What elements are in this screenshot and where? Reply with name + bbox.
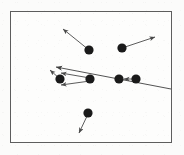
dot-mid-right-b (131, 74, 140, 83)
dot-top-left (84, 45, 93, 54)
vector-canvas (0, 0, 184, 155)
dot-mid-left (55, 74, 64, 83)
dot-bottom (83, 108, 92, 117)
arrow-top-left-upleft (63, 29, 89, 50)
dot-mid-center (85, 74, 94, 83)
arrow-mid-center-to-left-upper (61, 73, 90, 78)
ray-long-traversing (56, 67, 171, 89)
arrow-mid-center-to-left-lower (61, 81, 90, 85)
rays-layer (56, 67, 171, 89)
dot-mid-right-a (114, 74, 123, 83)
dot-top-right (117, 43, 126, 52)
arrow-top-right-upright (122, 37, 155, 48)
figure-root (0, 0, 184, 155)
